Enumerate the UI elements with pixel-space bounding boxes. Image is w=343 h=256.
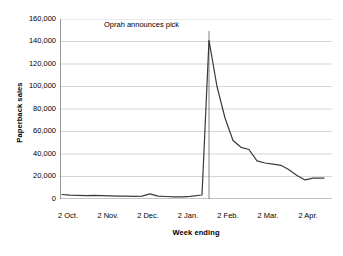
chart-container: Paperback sales Week ending 160,000 140,… bbox=[0, 0, 343, 256]
plot-area bbox=[60, 19, 332, 199]
y-tick-label-80000: 80,000 bbox=[0, 105, 56, 113]
y-tick-label-120000: 120,000 bbox=[0, 60, 56, 68]
x-axis-title: Week ending bbox=[60, 228, 332, 237]
y-tick-label-140000: 140,000 bbox=[0, 37, 56, 45]
y-tick-label-100000: 100,000 bbox=[0, 82, 56, 90]
y-tick-label-60000: 60,000 bbox=[0, 127, 56, 135]
x-tick-label-apr: 2 Apr. bbox=[282, 211, 334, 220]
y-tick-label-160000: 160,000 bbox=[0, 15, 56, 23]
y-tick-label-0: 0 bbox=[0, 195, 56, 203]
y-tick-label-20000: 20,000 bbox=[0, 172, 56, 180]
gridlines bbox=[60, 19, 332, 177]
y-tick-label-40000: 40,000 bbox=[0, 150, 56, 158]
